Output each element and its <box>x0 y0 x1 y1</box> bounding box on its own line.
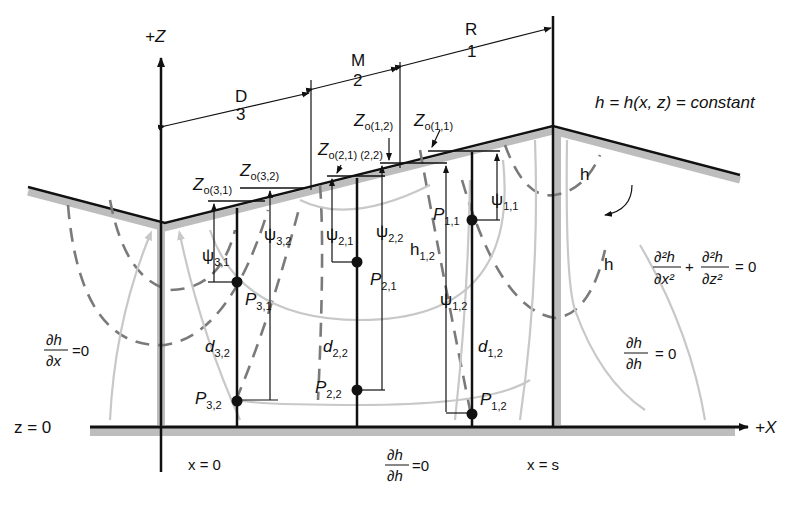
svg-text:∂z²: ∂z² <box>702 270 723 287</box>
svg-text:∂x²: ∂x² <box>654 270 675 287</box>
zone-d-number: 3 <box>236 105 245 124</box>
h12-label: h1,2 <box>410 240 435 262</box>
zone-d-letter: D <box>235 87 247 106</box>
p31-label: P3,1 <box>245 290 272 312</box>
d22-label: d2,2 <box>323 337 348 359</box>
x-axis-label: +X <box>755 418 777 437</box>
svg-text:∂h: ∂h <box>626 334 642 351</box>
zo32-label: Zo(3,2) <box>239 161 279 182</box>
svg-text:= 0: = 0 <box>655 345 676 362</box>
psi31-label: ψ3,1 <box>202 246 229 268</box>
h-label-inner: h <box>580 165 589 184</box>
equipotential-mid <box>318 185 322 400</box>
svg-text:=0: =0 <box>412 457 429 474</box>
zo12-label: Zo(1,2) <box>353 111 393 132</box>
svg-text:= 0: = 0 <box>735 258 756 275</box>
ground-surface-shadow <box>28 131 740 228</box>
bc-right: ∂h ∂h = 0 <box>624 334 676 372</box>
p22-label: P2,2 <box>315 378 342 400</box>
measurement-points <box>232 215 478 420</box>
svg-text:∂h: ∂h <box>626 355 642 372</box>
point-p32 <box>232 396 243 407</box>
zone-m-number: 2 <box>353 71 362 90</box>
piezometer-flow-net-diagram: +Z +X z = 0 x = 0 x = s R 1 M 2 D 3 Zo(1… <box>0 0 801 506</box>
d32-label: d3,2 <box>205 337 230 359</box>
p21-label: P2,1 <box>370 270 397 292</box>
flow-line-right-1 <box>520 140 536 420</box>
point-p22 <box>352 385 363 396</box>
flow-line-left-1 <box>110 235 150 420</box>
svg-text:∂²h: ∂²h <box>654 248 675 265</box>
zone-r-number: 1 <box>467 42 476 61</box>
zo11-label: Zo(1,1) <box>413 111 453 132</box>
h-label-outer: h <box>604 255 613 274</box>
point-p31 <box>232 277 243 288</box>
z-axis-label: +Z <box>145 27 166 46</box>
svg-text:∂x: ∂x <box>46 352 61 369</box>
psi12-label: ψ1,2 <box>440 290 467 312</box>
psi21-label: ψ2,1 <box>326 225 353 247</box>
point-p21 <box>352 257 363 268</box>
zone-m-letter: M <box>351 51 365 70</box>
zone-r-letter: R <box>465 20 477 39</box>
zo11-leader <box>432 130 440 147</box>
svg-text:∂h: ∂h <box>387 467 403 484</box>
right-boundary-label: x = s <box>527 456 559 473</box>
svg-text:∂h: ∂h <box>387 446 403 463</box>
svg-text:∂²h: ∂²h <box>702 248 723 265</box>
h-constant-definition: h = h(x, z) = constant <box>595 93 756 112</box>
h-constant-leader <box>605 185 632 215</box>
svg-text:=0: =0 <box>72 342 89 359</box>
svg-text:∂h: ∂h <box>46 331 62 348</box>
left-boundary-label: x = 0 <box>188 456 221 473</box>
point-p11 <box>467 215 478 226</box>
baseline-label: z = 0 <box>14 418 51 437</box>
p32-label: P3,2 <box>195 389 222 411</box>
laplace-equation: ∂²h ∂x² + ∂²h ∂z² = 0 <box>653 248 756 287</box>
zo21-22-label: Zo(2,1) (2,2) <box>317 140 383 161</box>
bc-left: ∂h ∂x =0 <box>44 331 89 369</box>
svg-text:+: + <box>685 258 694 275</box>
point-p12 <box>467 409 478 420</box>
psi32-label: ψ3,2 <box>264 225 291 247</box>
psi22-label: ψ2,2 <box>376 222 403 244</box>
bc-bottom: ∂h ∂h =0 <box>385 446 429 484</box>
zo31-label: Zo(3,1) <box>192 175 232 196</box>
zo21-leader <box>337 165 341 173</box>
equipotential-h12 <box>420 150 470 410</box>
d12-label: d1,2 <box>478 337 503 359</box>
